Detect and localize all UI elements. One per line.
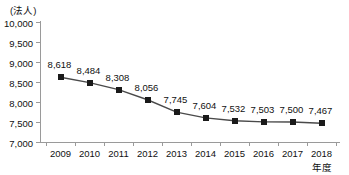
data-point-marker xyxy=(232,118,238,124)
x-axis-tick xyxy=(220,142,221,146)
x-axis-tick-label: 2014 xyxy=(195,148,216,159)
data-point-marker xyxy=(174,109,180,115)
data-point-value-label: 7,500 xyxy=(280,104,304,115)
x-axis-title: 年度 xyxy=(312,160,332,174)
y-axis-tick: 10,000 xyxy=(36,22,40,23)
x-axis-tick-label: 2010 xyxy=(79,148,100,159)
data-point-marker xyxy=(319,120,325,126)
x-axis-tick-label: 2012 xyxy=(137,148,158,159)
x-axis-tick-label: 2016 xyxy=(253,148,274,159)
x-axis-tick xyxy=(133,142,134,146)
x-axis-tick xyxy=(75,142,76,146)
x-axis-tick xyxy=(278,142,279,146)
x-axis-tick xyxy=(162,142,163,146)
data-point-marker xyxy=(290,119,296,125)
x-axis-tick xyxy=(191,142,192,146)
y-axis-tick-label: 7,000 xyxy=(9,137,33,148)
y-axis-unit-caption: (法人) xyxy=(10,3,36,17)
data-point-marker xyxy=(145,97,151,103)
y-axis-tick: 7,000 xyxy=(36,142,40,143)
y-axis-tick: 7,500 xyxy=(36,122,40,123)
x-axis-tick xyxy=(249,142,250,146)
data-point-marker xyxy=(116,87,122,93)
data-point-marker xyxy=(87,80,93,86)
x-axis-tick xyxy=(104,142,105,146)
data-point-value-label: 7,467 xyxy=(309,105,333,116)
y-axis-tick: 8,000 xyxy=(36,102,40,103)
data-point-marker xyxy=(58,74,64,80)
y-axis-tick-label: 9,000 xyxy=(9,57,33,68)
data-point-value-label: 7,532 xyxy=(222,103,246,114)
y-axis-tick-label: 8,000 xyxy=(9,97,33,108)
y-axis-tick: 8,500 xyxy=(36,82,40,83)
y-axis-tick-label: 9,500 xyxy=(9,37,33,48)
data-point-value-label: 8,484 xyxy=(77,65,101,76)
data-point-value-label: 7,745 xyxy=(164,94,188,105)
y-axis-tick-label: 10,000 xyxy=(4,17,33,28)
x-axis-tick-label: 2017 xyxy=(282,148,303,159)
x-axis-tick xyxy=(336,142,337,146)
data-point-value-label: 8,618 xyxy=(48,59,72,70)
y-axis-tick-label: 8,500 xyxy=(9,77,33,88)
data-point-value-label: 8,308 xyxy=(106,72,130,83)
data-point-value-label: 7,604 xyxy=(193,100,217,111)
data-point-value-label: 7,503 xyxy=(251,104,275,115)
data-point-value-label: 8,056 xyxy=(135,82,159,93)
x-axis-tick-label: 2013 xyxy=(166,148,187,159)
x-axis-tick-label: 2011 xyxy=(108,148,128,159)
data-point-marker xyxy=(261,119,267,125)
y-axis-tick-label: 7,500 xyxy=(9,117,33,128)
y-axis-tick: 9,500 xyxy=(36,42,40,43)
y-axis-line xyxy=(40,21,41,143)
y-axis-tick: 9,000 xyxy=(36,62,40,63)
x-axis-tick xyxy=(307,142,308,146)
line-chart: (法人) 10,0009,5009,0008,5008,0007,5007,00… xyxy=(0,0,349,175)
data-point-marker xyxy=(203,115,209,121)
x-axis-tick-label: 2015 xyxy=(224,148,245,159)
x-axis-line xyxy=(40,142,340,143)
x-axis-tick-label: 2018 xyxy=(311,148,332,159)
x-axis-tick xyxy=(46,142,47,146)
x-axis-tick-label: 2009 xyxy=(50,148,71,159)
